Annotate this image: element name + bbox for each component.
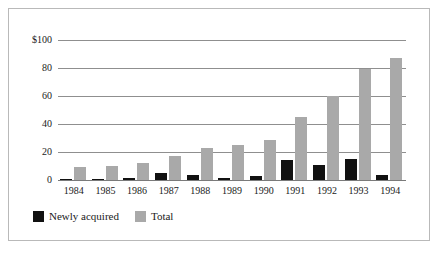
bar-group: 1992: [311, 40, 343, 180]
x-axis-tick-label: 1989: [216, 186, 248, 196]
bar-newly-acquired: [187, 175, 199, 180]
y-axis-tick-label: 40: [42, 119, 52, 129]
bar-total: [390, 58, 402, 181]
bar-newly-acquired: [345, 159, 357, 180]
bar-total: [137, 163, 149, 180]
plot-area: 020406080$100 19841985198619871988198919…: [58, 40, 406, 180]
bar-newly-acquired: [123, 178, 135, 180]
bar-group: 1984: [58, 40, 90, 180]
x-axis-tick-label: 1993: [343, 186, 375, 196]
x-axis-tick-label: 1987: [153, 186, 185, 196]
y-axis-tick-label: 80: [42, 63, 52, 73]
y-axis-tick-label: 20: [42, 147, 52, 157]
y-axis-tick-label: $100: [32, 35, 52, 45]
bar-group: 1991: [279, 40, 311, 180]
x-axis-tick-label: 1988: [185, 186, 217, 196]
bar-group: 1988: [185, 40, 217, 180]
bar-newly-acquired: [250, 176, 262, 180]
bar-newly-acquired: [92, 179, 104, 180]
x-axis-tick-label: 1985: [90, 186, 122, 196]
bar-newly-acquired: [218, 178, 230, 180]
bar-total: [106, 166, 118, 180]
x-axis-tick-label: 1991: [279, 186, 311, 196]
bar-newly-acquired: [281, 160, 293, 180]
bar-total: [201, 148, 213, 180]
bar-total: [74, 167, 86, 180]
bar-group: 1989: [216, 40, 248, 180]
bar-group: 1994: [374, 40, 406, 180]
legend-label: Newly acquired: [49, 211, 119, 222]
bar-total: [264, 140, 276, 180]
bar-group: 1990: [248, 40, 280, 180]
y-axis-tick-label: 0: [47, 175, 52, 185]
x-axis-tick-label: 1990: [248, 186, 280, 196]
y-axis-tick-label: 60: [42, 91, 52, 101]
bar-group: 1986: [121, 40, 153, 180]
x-axis-tick-label: 1986: [121, 186, 153, 196]
legend-entry: Newly acquired: [33, 211, 119, 222]
legend-label: Total: [151, 211, 173, 222]
bar-total: [359, 69, 371, 180]
bar-total: [169, 156, 181, 180]
bar-newly-acquired: [60, 179, 72, 180]
bar-total: [232, 145, 244, 180]
legend-entry: Total: [135, 211, 173, 222]
gridline-0: 0: [58, 180, 406, 181]
bar-newly-acquired: [313, 165, 325, 180]
x-axis-tick-label: 1994: [374, 186, 406, 196]
bar-group: 1987: [153, 40, 185, 180]
bar-series-container: 1984198519861987198819891990199119921993…: [58, 40, 406, 180]
legend-swatch-icon: [33, 211, 44, 222]
legend-swatch-icon: [135, 211, 146, 222]
chart-legend: Newly acquiredTotal: [33, 211, 173, 222]
bar-total: [295, 117, 307, 180]
chart-figure: 020406080$100 19841985198619871988198919…: [8, 8, 430, 241]
bar-group: 1993: [343, 40, 375, 180]
bar-newly-acquired: [376, 175, 388, 180]
x-axis-tick-label: 1984: [58, 186, 90, 196]
x-axis-tick-label: 1992: [311, 186, 343, 196]
bar-newly-acquired: [155, 173, 167, 180]
bar-total: [327, 96, 339, 180]
bar-group: 1985: [90, 40, 122, 180]
